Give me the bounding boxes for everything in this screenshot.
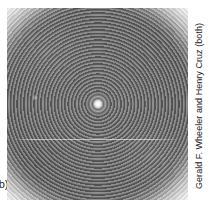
figure-panel: (b) Gerald F. Wheeler and Henry Cruz (bo… <box>0 0 209 211</box>
interference-pattern-photo <box>7 8 188 200</box>
figure-label: (b) <box>0 176 7 192</box>
photo-vignette <box>7 8 188 200</box>
photo-credit-text: Gerald F. Wheeler and Henry Cruz (both) <box>194 22 204 188</box>
photo-credit: Gerald F. Wheeler and Henry Cruz (both) <box>189 0 209 211</box>
